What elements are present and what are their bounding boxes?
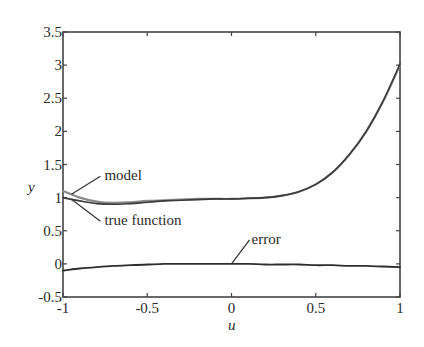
- chart: -0.500.511.522.533.5 -1-0.500.51 modeltr…: [0, 0, 424, 347]
- y-tick-label: 2.5: [43, 90, 62, 106]
- annotation-leader-error: [232, 240, 250, 264]
- annotation-true-function: true function: [104, 212, 182, 228]
- y-tick-label: 2: [55, 123, 63, 139]
- y-tick-label: 0.5: [43, 223, 62, 239]
- annotation-error: error: [252, 231, 281, 247]
- plot-frame: [63, 32, 400, 297]
- y-tick-label: 1: [55, 190, 63, 206]
- x-tick-label: 1: [396, 300, 404, 316]
- x-tick-label: 0.5: [306, 300, 325, 316]
- y-tick-label: 3: [55, 57, 63, 73]
- y-tick-label: 1.5: [43, 157, 62, 173]
- y-axis-label: y: [26, 179, 35, 195]
- series-line-error: [63, 264, 400, 271]
- x-axis-label: u: [228, 317, 236, 333]
- annotation-leader-model: [71, 176, 100, 194]
- plot-border: [63, 32, 400, 297]
- x-tick-label: 0: [228, 300, 236, 316]
- y-tick-label: 0: [55, 256, 63, 272]
- x-tick-label: -0.5: [135, 300, 159, 316]
- annotation-model: model: [104, 167, 142, 183]
- x-tick-label: -1: [57, 300, 70, 316]
- y-tick-label: 3.5: [43, 24, 62, 40]
- y-axis: -0.500.511.522.533.5: [38, 24, 400, 305]
- annotations: modeltrue functionerror: [71, 167, 280, 264]
